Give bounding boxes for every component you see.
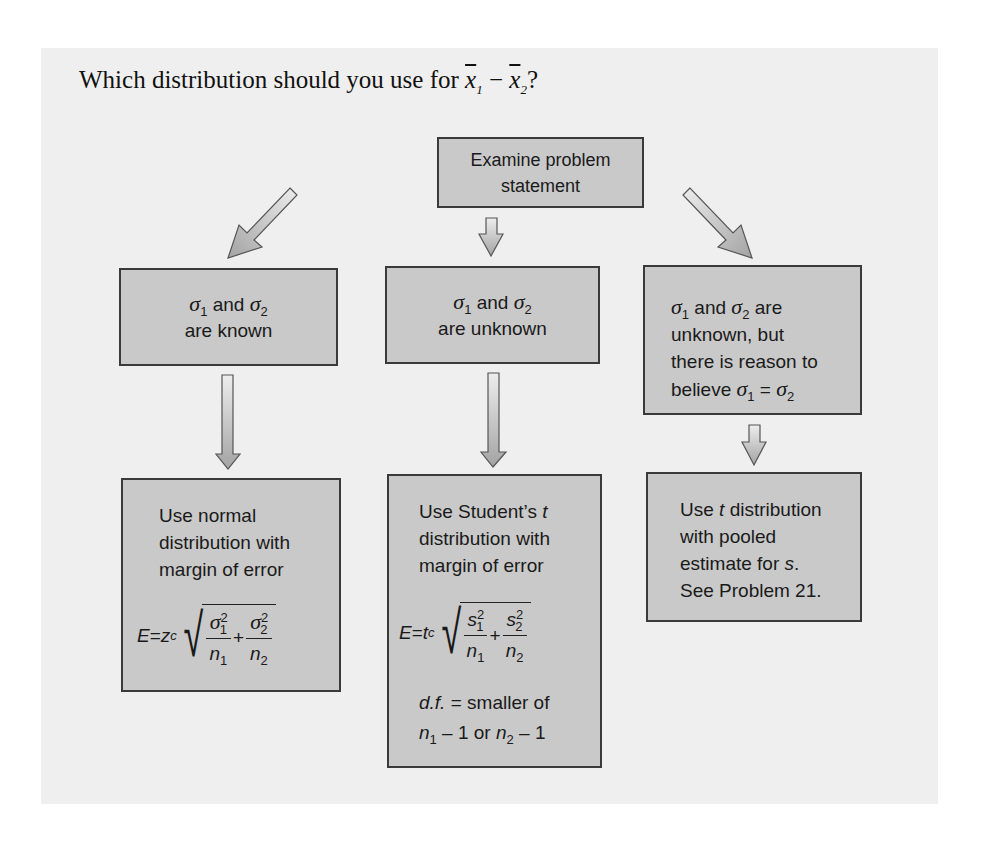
node-student-line2: distribution with xyxy=(419,525,550,552)
node-pooled-line2: with pooled xyxy=(680,523,822,550)
arrow-unknown-to-student xyxy=(481,373,506,467)
node-normal-line2: distribution with xyxy=(159,529,290,556)
node-sigmas-known-line2: are known xyxy=(121,318,336,344)
node-sigmas-equal-line3: there is reason to xyxy=(671,348,860,375)
node-sigmas-equal: σ1 and σ2 are unknown, but there is reas… xyxy=(643,265,862,415)
node-pooled-t-distribution: Use t distribution with pooled estimate … xyxy=(646,472,862,622)
arrow-to-equal xyxy=(683,188,752,258)
sqrt-symbol: √ s21n1 + s22n2 xyxy=(435,602,531,664)
node-sigmas-known: σ1 and σ2 are known xyxy=(119,268,338,366)
node-sigmas-unknown: σ1 and σ2 are unknown xyxy=(385,266,600,364)
node-sigmas-known-line1: σ1 and σ2 xyxy=(121,291,336,318)
node-normal-distribution: Use normal distribution with margin of e… xyxy=(121,478,341,692)
arrow-equal-to-pooled xyxy=(742,425,766,465)
node-pooled-line1: Use t distribution xyxy=(680,496,822,523)
arrow-known-to-normal xyxy=(216,375,240,469)
student-margin-of-error-formula: E = tc √ s21n1 + s22n2 xyxy=(399,602,531,664)
node-sigmas-equal-line4: believe σ1 = σ2 xyxy=(671,375,860,403)
node-student-t-distribution: Use Student’s t distribution with margin… xyxy=(387,474,602,768)
student-df-line1: d.f. = smaller of xyxy=(419,688,549,718)
student-df-line2: n1 – 1 or n2 – 1 xyxy=(419,718,549,748)
node-student-line1: Use Student’s t xyxy=(419,498,550,525)
node-sigmas-equal-line1: σ1 and σ2 are xyxy=(671,293,860,321)
node-examine-problem-label: Examine problem statement xyxy=(439,147,642,199)
node-examine-problem: Examine problem statement xyxy=(437,137,644,208)
sqrt-symbol: √ σ21n1 + σ22n2 xyxy=(177,604,276,667)
node-sigmas-unknown-line2: are unknown xyxy=(387,316,598,342)
node-sigmas-equal-line2: unknown, but xyxy=(671,321,860,348)
normal-margin-of-error-formula: E = zc √ σ21n1 + σ22n2 xyxy=(137,604,276,667)
node-normal-line3: margin of error xyxy=(159,556,290,583)
node-pooled-line3: estimate for s. xyxy=(680,550,822,577)
arrow-to-unknown xyxy=(479,218,503,256)
arrow-to-known xyxy=(228,188,297,258)
node-pooled-line4: See Problem 21. xyxy=(680,577,822,604)
node-student-line3: margin of error xyxy=(419,552,550,579)
node-normal-line1: Use normal xyxy=(159,502,290,529)
node-sigmas-unknown-line1: σ1 and σ2 xyxy=(387,289,598,316)
